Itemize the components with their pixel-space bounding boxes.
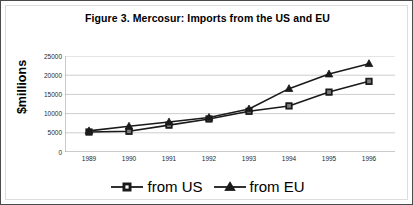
x-axis-tick-label: 1991: [149, 155, 189, 163]
data-point-marker-square[interactable]: [286, 103, 292, 109]
marker-square-inner: [327, 90, 331, 94]
y-axis-tick-labels: 0500010000150002000025000: [18, 56, 62, 152]
chart-title: Figure 3. Mercosur: Imports from the US …: [6, 12, 409, 24]
y-axis-tick-label: 25000: [22, 53, 62, 60]
plot-canvas: [65, 56, 395, 152]
legend-item-from-us[interactable]: from US: [110, 178, 202, 195]
chart-legend: from USfrom EU: [6, 178, 409, 195]
y-axis-tick-label: 15000: [22, 91, 62, 98]
x-axis-tick-labels: 19891990199119921993199419951996: [65, 155, 395, 167]
x-axis-tick-label: 1996: [349, 155, 389, 163]
marker-square-inner: [287, 104, 291, 108]
legend-item-from-eu[interactable]: from EU: [213, 178, 305, 195]
data-point-marker-square[interactable]: [326, 89, 332, 95]
marker-square-inner: [367, 79, 371, 83]
x-axis-tick-label: 1994: [269, 155, 309, 163]
data-point-marker-triangle[interactable]: [365, 60, 373, 67]
data-point-marker-square[interactable]: [366, 78, 372, 84]
y-axis-tick-label: 0: [22, 149, 62, 156]
legend-square-inner: [126, 185, 129, 188]
y-axis-tick-label: 10000: [22, 110, 62, 117]
x-axis-tick-label: 1995: [309, 155, 349, 163]
legend-marker-square-icon: [110, 180, 144, 194]
figure-container: Figure 3. Mercosur: Imports from the US …: [0, 0, 413, 205]
x-axis-tick-label: 1993: [229, 155, 269, 163]
legend-label: from EU: [250, 178, 305, 195]
x-axis-tick-label: 1990: [109, 155, 149, 163]
y-axis-tick-label: 20000: [22, 72, 62, 79]
marker-square-inner: [127, 129, 131, 133]
x-axis-tick-label: 1989: [69, 155, 109, 163]
chart-svg: [65, 56, 395, 152]
y-axis-tick-label: 5000: [22, 129, 62, 136]
legend-label: from US: [147, 178, 202, 195]
legend-marker-triangle-icon: [213, 180, 247, 194]
figure-plot-area: Figure 3. Mercosur: Imports from the US …: [5, 5, 408, 200]
x-axis-tick-label: 1992: [189, 155, 229, 163]
